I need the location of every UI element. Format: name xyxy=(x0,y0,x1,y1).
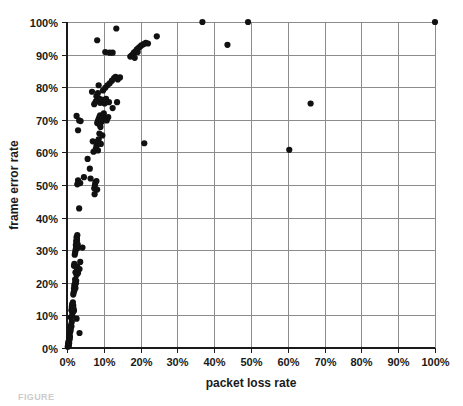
data-point xyxy=(78,118,84,124)
x-tick-label: 90% xyxy=(387,356,409,368)
x-tick-label: 10% xyxy=(93,356,115,368)
data-point xyxy=(76,205,82,211)
data-point xyxy=(154,33,160,39)
data-point xyxy=(224,42,230,48)
data-point xyxy=(141,140,147,146)
data-point xyxy=(70,299,76,305)
x-tick-label: 50% xyxy=(240,356,262,368)
data-point xyxy=(106,99,112,105)
figure-caption-text: FIGURE xyxy=(18,392,168,402)
y-tick-label: 10% xyxy=(36,310,58,322)
y-tick-label: 80% xyxy=(36,82,58,94)
data-point xyxy=(87,175,93,181)
y-axis-title: frame error rate xyxy=(7,140,21,230)
data-point xyxy=(71,308,77,314)
data-point xyxy=(145,40,151,46)
data-point xyxy=(93,178,99,184)
x-tick-label: 70% xyxy=(314,356,336,368)
data-point xyxy=(114,99,120,105)
data-point xyxy=(76,330,82,336)
data-point xyxy=(89,89,95,95)
data-point xyxy=(95,147,101,153)
y-tick-label: 40% xyxy=(36,213,58,225)
figure-caption-partial: FIGURE xyxy=(18,392,168,401)
data-point xyxy=(77,259,83,265)
data-point xyxy=(132,55,138,61)
y-tick-label: 70% xyxy=(36,115,58,127)
data-point xyxy=(135,49,141,55)
data-point xyxy=(94,37,100,43)
data-point xyxy=(110,50,116,56)
data-point xyxy=(81,174,87,180)
data-point xyxy=(96,130,102,136)
data-point xyxy=(75,270,81,276)
scatter-plot-svg: 0%10%20%30%40%50%60%70%80%90%100% 0%10%2… xyxy=(0,0,463,406)
x-tick-label: 80% xyxy=(350,356,372,368)
data-point xyxy=(199,19,205,25)
data-point xyxy=(73,316,79,322)
data-point xyxy=(245,19,251,25)
data-point xyxy=(96,82,102,88)
data-point xyxy=(308,100,314,106)
x-tick-label: 40% xyxy=(203,356,225,368)
data-point xyxy=(87,166,93,172)
y-tick-label: 0% xyxy=(42,343,58,355)
figure-page: 0%10%20%30%40%50%60%70%80%90%100% 0%10%2… xyxy=(0,0,463,406)
x-tick-label: 100% xyxy=(421,356,449,368)
data-point xyxy=(113,25,119,31)
x-tick-label: 20% xyxy=(130,356,152,368)
scatter-chart-figure: 0%10%20%30%40%50%60%70%80%90%100% 0%10%2… xyxy=(0,0,463,406)
data-point xyxy=(432,19,438,25)
x-tick-label: 30% xyxy=(166,356,188,368)
y-tick-label: 100% xyxy=(30,17,58,29)
data-point xyxy=(75,127,81,133)
data-point xyxy=(98,141,104,147)
y-tick-label: 50% xyxy=(36,180,58,192)
data-point xyxy=(117,74,123,80)
data-point xyxy=(97,124,103,130)
y-tick-label: 30% xyxy=(36,245,58,257)
data-point xyxy=(286,147,292,153)
data-point xyxy=(94,186,100,192)
data-point xyxy=(79,244,85,250)
x-axis-title: packet loss rate xyxy=(206,376,297,390)
data-point xyxy=(77,180,83,186)
y-tick-label: 20% xyxy=(36,278,58,290)
data-point xyxy=(90,138,96,144)
data-point xyxy=(85,156,91,162)
x-tick-label: 0% xyxy=(60,356,76,368)
y-tick-label: 90% xyxy=(36,50,58,62)
y-tick-label: 60% xyxy=(36,147,58,159)
x-tick-label: 60% xyxy=(277,356,299,368)
data-point xyxy=(110,105,116,111)
data-point xyxy=(105,114,111,120)
